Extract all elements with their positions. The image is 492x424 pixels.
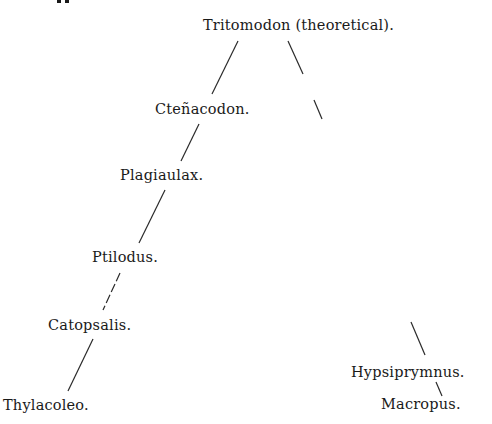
edge-root-ctenacodon <box>212 41 238 94</box>
edge-ctenacodon-plagiaulax <box>181 124 199 161</box>
edge-catopsalis-thylacoleo <box>68 339 93 391</box>
edge-root-hypsiprymnus-segment-2 <box>314 100 322 119</box>
node-catopsalis: Catopsalis. <box>48 317 131 333</box>
node-thylacoleo: Thylacoleo. <box>3 397 89 413</box>
edge-root-hypsiprymnus-segment-1 <box>288 41 303 74</box>
node-ctenacodon: Cteñacodon. <box>155 101 250 117</box>
edge-root-hypsiprymnus-segment-3 <box>411 322 425 355</box>
node-tritomodon: Tritomodon (theoretical). <box>203 17 394 33</box>
edge-plagiaulax-ptilodus <box>139 190 165 243</box>
node-plagiaulax: Plagiaulax. <box>120 167 203 183</box>
phylogenetic-tree-diagram: Tritomodon (theoretical). Cteñacodon. Pl… <box>0 0 492 424</box>
node-macropus: Macropus. <box>381 396 461 412</box>
node-ptilodus: Ptilodus. <box>92 249 158 265</box>
edge-hypsiprymnus-macropus <box>436 382 442 396</box>
cropped-text-fragment <box>57 0 69 3</box>
edge-ptilodus-catopsalis <box>103 273 120 310</box>
node-hypsiprymnus: Hypsiprymnus. <box>351 364 465 380</box>
